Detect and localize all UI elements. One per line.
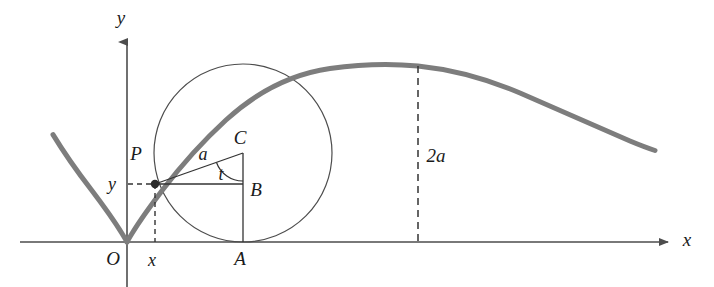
point-b-label: B bbox=[250, 179, 262, 200]
two-a-label: 2a bbox=[427, 145, 446, 166]
point-p-marker bbox=[151, 180, 159, 188]
point-a-label: A bbox=[232, 248, 246, 269]
origin-label: O bbox=[106, 248, 120, 269]
radius-a-label: a bbox=[199, 144, 208, 164]
cycloid-figure: y x O P C B A a t y x 2a bbox=[0, 0, 714, 287]
x-value-label: x bbox=[147, 250, 156, 270]
point-c-label: C bbox=[234, 127, 247, 148]
x-axis-label: x bbox=[682, 229, 692, 250]
point-p-label: P bbox=[129, 143, 142, 164]
y-axis-label: y bbox=[115, 7, 126, 28]
y-value-label: y bbox=[106, 174, 116, 194]
